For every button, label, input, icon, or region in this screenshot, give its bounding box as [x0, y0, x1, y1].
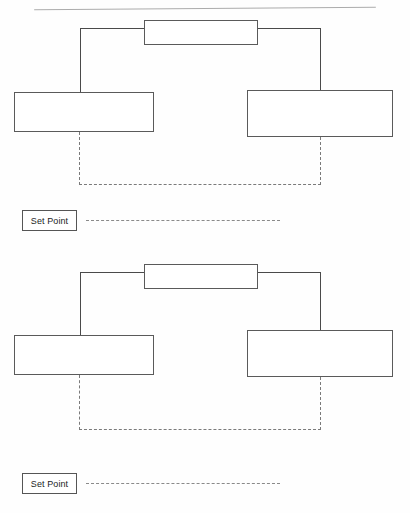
wire-left-vertical: [80, 272, 81, 336]
feedback-horizontal: [79, 429, 321, 430]
wire-right-vertical: [320, 28, 321, 91]
block-process-right[interactable]: [247, 90, 393, 137]
wire-top-to-right-horizontal: [258, 28, 321, 29]
control-diagram-1: Set Point: [0, 0, 410, 255]
block-process-left[interactable]: [14, 335, 154, 375]
setpoint-row: Set Point: [0, 210, 410, 234]
setpoint-box[interactable]: Set Point: [22, 473, 77, 494]
feedback-left-vertical: [79, 375, 80, 430]
setpoint-label: Set Point: [31, 216, 68, 226]
feedback-horizontal: [79, 184, 321, 185]
feedback-left-vertical: [79, 132, 80, 185]
block-controller-top[interactable]: [144, 20, 258, 45]
wire-left-vertical: [80, 28, 81, 93]
feedback-right-vertical: [320, 137, 321, 185]
setpoint-dashed-line: [86, 220, 280, 221]
wire-top-to-left-horizontal: [80, 28, 144, 29]
wire-top-to-left-horizontal: [80, 272, 144, 273]
block-controller-top[interactable]: [144, 264, 258, 289]
block-process-right[interactable]: [247, 330, 393, 377]
setpoint-label: Set Point: [31, 479, 68, 489]
block-process-left[interactable]: [14, 92, 154, 132]
setpoint-dashed-line: [86, 483, 280, 484]
control-diagram-2: Set Point: [0, 255, 410, 513]
setpoint-box[interactable]: Set Point: [22, 210, 77, 231]
wire-right-vertical: [320, 272, 321, 331]
setpoint-row: Set Point: [0, 473, 410, 497]
wire-top-to-right-horizontal: [258, 272, 321, 273]
page-root: Set Point Set Point: [0, 0, 410, 513]
feedback-right-vertical: [320, 377, 321, 430]
